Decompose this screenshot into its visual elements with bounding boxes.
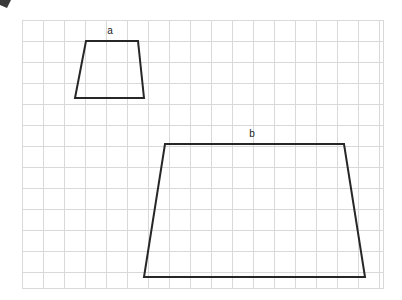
figure-canvas: ab	[0, 0, 402, 300]
shape-label-a: a	[107, 25, 113, 36]
trapezoid-figure: ab	[0, 0, 402, 300]
corner-smudge-mark	[0, 0, 11, 8]
grid	[23, 21, 384, 289]
shape-label-b: b	[249, 128, 255, 139]
grid-border	[23, 21, 384, 289]
corner-smudge-icon	[0, 0, 11, 8]
trapezoid-b	[144, 144, 365, 277]
shapes-layer	[75, 41, 365, 277]
